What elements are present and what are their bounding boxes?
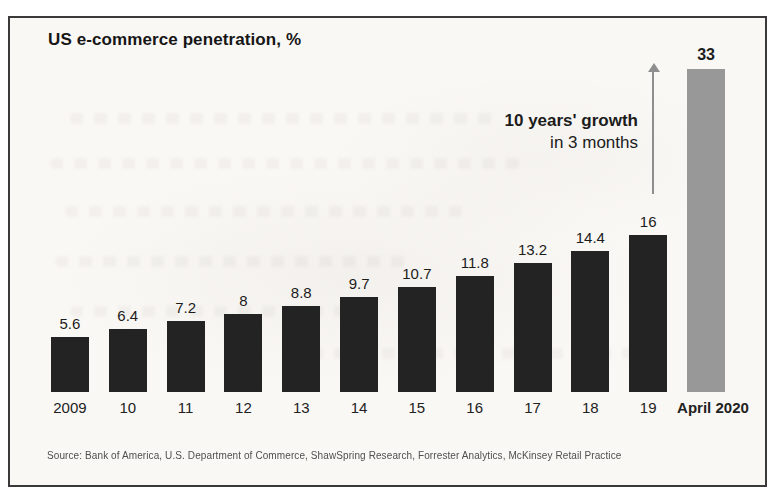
bar-10 xyxy=(109,329,147,392)
x-axis-label-10: 10 xyxy=(99,399,157,416)
bar-column: 16 xyxy=(619,213,677,392)
bar-value-label: 11.8 xyxy=(461,254,489,271)
bar-column: 13.2 xyxy=(504,241,562,392)
bar-column: 7.2 xyxy=(157,299,215,392)
bar-2009 xyxy=(51,337,89,392)
bar-value-label: 5.6 xyxy=(59,315,80,332)
bar-value-label: 14.4 xyxy=(576,229,605,246)
bar-column: 5.6 xyxy=(41,315,99,392)
bar-17 xyxy=(514,263,552,392)
growth-annotation-line1: 10 years' growth xyxy=(408,110,638,132)
x-axis-label-14: 14 xyxy=(330,399,388,416)
bar-column: 11.8 xyxy=(446,254,504,392)
bar-value-label: 7.2 xyxy=(175,299,196,316)
bar-column: 8 xyxy=(214,292,272,392)
bar-april-2020 xyxy=(687,69,725,392)
bar-value-label: 33 xyxy=(697,46,715,64)
bar-15 xyxy=(398,287,436,392)
bar-value-label: 10.7 xyxy=(402,265,431,282)
arrow-head xyxy=(648,63,660,72)
bar-19 xyxy=(629,235,667,392)
bar-column: 9.7 xyxy=(330,275,388,392)
x-axis-label-13: 13 xyxy=(272,399,330,416)
bar-chart: 5.66.47.288.89.710.711.813.214.41633 xyxy=(41,18,735,392)
chart-frame: US e-commerce penetration, % 5.66.47.288… xyxy=(8,16,767,487)
x-axis-label-18: 18 xyxy=(561,399,619,416)
x-axis-label-17: 17 xyxy=(504,399,562,416)
bar-value-label: 13.2 xyxy=(518,241,547,258)
bar-11 xyxy=(167,321,205,392)
x-axis-labels: 200910111213141516171819April 2020 xyxy=(41,399,735,416)
x-axis-label-april-2020: April 2020 xyxy=(677,399,735,416)
bar-column: 6.4 xyxy=(99,307,157,392)
source-citation: Source: Bank of America, U.S. Department… xyxy=(47,450,621,461)
x-axis-label-12: 12 xyxy=(214,399,272,416)
up-arrow-icon xyxy=(652,66,654,194)
bar-value-label: 6.4 xyxy=(117,307,138,324)
x-axis-label-15: 15 xyxy=(388,399,446,416)
bar-16 xyxy=(456,276,494,392)
x-axis-label-16: 16 xyxy=(446,399,504,416)
bar-value-label: 8.8 xyxy=(291,284,312,301)
x-axis-label-19: 19 xyxy=(619,399,677,416)
bar-value-label: 16 xyxy=(640,213,657,230)
bar-18 xyxy=(571,251,609,392)
x-axis-label-2009: 2009 xyxy=(41,399,99,416)
bar-column: 14.4 xyxy=(561,229,619,392)
growth-annotation: 10 years' growth in 3 months xyxy=(408,110,638,154)
bar-column: 8.8 xyxy=(272,284,330,392)
bar-value-label: 9.7 xyxy=(349,275,370,292)
bar-12 xyxy=(224,314,262,392)
bar-14 xyxy=(340,297,378,392)
scanned-page: { "page": { "title": "US e-commerce pene… xyxy=(0,0,780,503)
bar-13 xyxy=(282,306,320,392)
bar-value-label: 8 xyxy=(239,292,247,309)
bar-column: 10.7 xyxy=(388,265,446,392)
growth-annotation-line2: in 3 months xyxy=(408,132,638,154)
bar-column: 33 xyxy=(677,46,735,392)
x-axis-label-11: 11 xyxy=(157,399,215,416)
